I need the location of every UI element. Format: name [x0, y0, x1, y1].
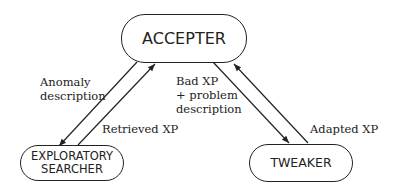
label-bad-xp-line3: description [176, 103, 242, 117]
node-tweaker: TWEAKER [249, 144, 353, 182]
node-tweaker-label: TWEAKER [270, 156, 331, 170]
label-anomaly-description: Anomaly description [40, 76, 106, 104]
label-anomaly-line1: Anomaly [40, 76, 106, 90]
node-exploratory-searcher: EXPLORATORY SEARCHER [20, 145, 124, 181]
label-anomaly-line2: description [40, 90, 106, 104]
node-exploratory-label-line2: SEARCHER [41, 163, 103, 176]
arrow-adapted-xp [234, 64, 308, 143]
label-bad-xp-line2: + problem [176, 89, 242, 103]
label-adapted-text: Adapted XP [310, 122, 378, 136]
label-retrieved-xp: Retrieved XP [102, 123, 178, 137]
label-adapted-xp: Adapted XP [310, 123, 378, 137]
label-retrieved-text: Retrieved XP [102, 122, 178, 136]
diagram-canvas: ACCEPTER EXPLORATORY SEARCHER TWEAKER An… [0, 0, 395, 195]
node-accepter: ACCEPTER [121, 14, 247, 63]
label-bad-xp-line1: Bad XP [176, 75, 242, 89]
label-bad-xp: Bad XP + problem description [176, 75, 242, 116]
node-accepter-label: ACCEPTER [142, 30, 226, 48]
